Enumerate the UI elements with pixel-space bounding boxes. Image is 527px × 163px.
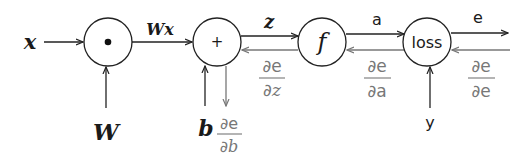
grad-de-dz-denominator: ∂z	[263, 80, 282, 100]
grad-de-db-denominator: ∂b	[220, 137, 239, 156]
edge-z-label: z	[263, 11, 275, 32]
grad-de-de-numerator: ∂e	[471, 56, 490, 76]
input-x-label: x	[23, 29, 37, 54]
loss-label: loss	[412, 33, 443, 52]
input-b-label: b	[198, 115, 213, 141]
grad-de-da-numerator: ∂e	[367, 56, 386, 76]
grad-de-dz: ∂e ∂z	[259, 56, 285, 100]
grad-de-de: ∂e ∂e	[468, 56, 495, 101]
grad-de-da-denominator: ∂a	[367, 81, 386, 101]
grad-de-db: ∂e ∂b	[217, 114, 242, 156]
edge-a-label: a	[372, 10, 382, 29]
grad-de-dz-numerator: ∂e	[262, 56, 281, 76]
grad-de-db-numerator: ∂e	[220, 114, 238, 133]
grad-de-de-denominator: ∂e	[471, 81, 490, 101]
dot-operator-icon	[105, 39, 112, 46]
add-operator-label: +	[211, 33, 224, 51]
grad-de-da: ∂e ∂a	[364, 56, 391, 101]
edge-wx-label: Wx	[146, 20, 174, 39]
input-y-label: y	[425, 113, 434, 132]
computational-graph: x W Wx + b ∂e ∂b z ∂e ∂z f a ∂e ∂a loss	[0, 0, 527, 163]
input-w-label: W	[93, 118, 121, 145]
edge-e-label: e	[473, 8, 483, 27]
